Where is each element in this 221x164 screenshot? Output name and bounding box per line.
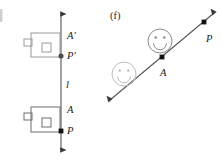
label-line-l: l: [66, 79, 69, 90]
label-a: A: [66, 104, 74, 115]
flag-shape-preimage: [24, 107, 60, 132]
figure-canvas: A′ P′ l A P (f): [0, 0, 221, 164]
panel-f-label: (f): [110, 10, 121, 22]
panel-e-label: [0, 9, 2, 22]
panel-f: (f) A P: [110, 10, 214, 100]
point-dot-p: [202, 20, 207, 25]
point-dot-p: [59, 129, 64, 134]
smiley-face-preimage: [112, 62, 136, 86]
panel-e: A′ P′ l A P: [0, 9, 76, 150]
smiley-mouth: [154, 43, 167, 49]
flag-shape-image: [24, 33, 60, 57]
smiley-eye-right: [127, 69, 130, 72]
label-p: P: [66, 125, 74, 136]
label-p: P: [205, 33, 213, 44]
point-dot-p-prime: [59, 54, 64, 59]
smiley-eye-right: [163, 36, 166, 39]
smiley-eye-left: [154, 36, 157, 39]
smiley-mouth: [118, 76, 131, 82]
geometry-figure: A′ P′ l A P (f): [0, 0, 221, 164]
point-dot-a: [160, 55, 165, 60]
label-a: A: [159, 67, 167, 78]
label-p-prime: P′: [66, 50, 76, 61]
label-a-prime: A′: [66, 30, 76, 41]
smiley-face-image: [148, 29, 172, 53]
smiley-eye-left: [118, 69, 121, 72]
